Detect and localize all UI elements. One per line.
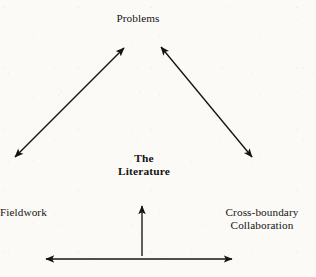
diagram-arrow-layer [0, 0, 316, 277]
arrow-problems-collaboration-right [161, 47, 252, 157]
node-label-cross-boundary-collaboration-line1: Cross-boundary [208, 206, 316, 219]
literature-triangle-diagram: Problems The Literature Fieldwork Cross-… [0, 0, 316, 277]
arrow-literature-problems-left [15, 48, 124, 157]
node-label-the-literature-line1: The [98, 152, 190, 165]
node-label-problems-text: Problems [88, 12, 188, 25]
node-label-the-literature-line2: Literature [98, 165, 190, 178]
node-label-cross-boundary-collaboration-line2: Collaboration [208, 219, 316, 232]
node-label-cross-boundary-collaboration: Cross-boundary Collaboration [208, 206, 316, 232]
node-label-fieldwork: Fieldwork [0, 206, 84, 219]
node-label-fieldwork-text: Fieldwork [0, 206, 84, 219]
node-label-problems: Problems [88, 12, 188, 25]
node-label-the-literature: The Literature [98, 152, 190, 179]
